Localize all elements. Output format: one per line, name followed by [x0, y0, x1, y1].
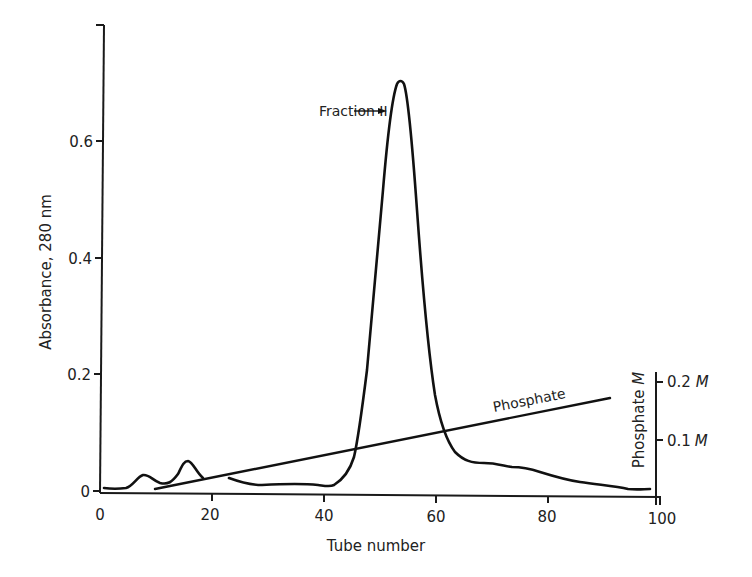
- y-tick-0.4: 0.4: [68, 250, 92, 268]
- x-tick-80: 80: [537, 508, 556, 526]
- y-axis: [93, 25, 104, 493]
- y-tick-0: 0: [80, 483, 90, 501]
- x-tick-60: 60: [426, 508, 445, 526]
- secondary-tick-0.1: 0.1M: [667, 432, 708, 450]
- secondary-tick-0.2: 0.2M: [667, 373, 709, 391]
- y-tick-0.2: 0.2: [67, 366, 91, 384]
- x-tick-100: 100: [648, 510, 677, 528]
- x-tick-0: 0: [95, 506, 105, 524]
- absorbance-curve-segment-1: [104, 461, 203, 489]
- phosphate-gradient-line: [155, 398, 610, 489]
- secondary-y-axis-title: Phosphate M: [630, 372, 648, 469]
- absorbance-curve-segment-2: [229, 81, 650, 489]
- secondary-tick-labels: 0.2M 0.1M: [667, 373, 709, 450]
- x-axis: [100, 493, 661, 505]
- secondary-y-axis: [656, 372, 663, 505]
- x-tick-labels: 0 20 40 60 80 100: [95, 506, 676, 528]
- y-tick-labels: 0 0.2 0.4 0.6: [67, 133, 93, 501]
- x-tick-40: 40: [314, 507, 333, 525]
- x-tick-20: 20: [200, 506, 219, 524]
- y-tick-0.6: 0.6: [69, 133, 93, 151]
- x-axis-title: Tube number: [326, 537, 426, 555]
- chromatogram-chart: 0 0.2 0.4 0.6 Absorbance, 280 nm 0 20 40…: [0, 0, 752, 577]
- y-axis-title: Absorbance, 280 nm: [37, 194, 55, 350]
- phosphate-label: Phosphate: [492, 385, 567, 415]
